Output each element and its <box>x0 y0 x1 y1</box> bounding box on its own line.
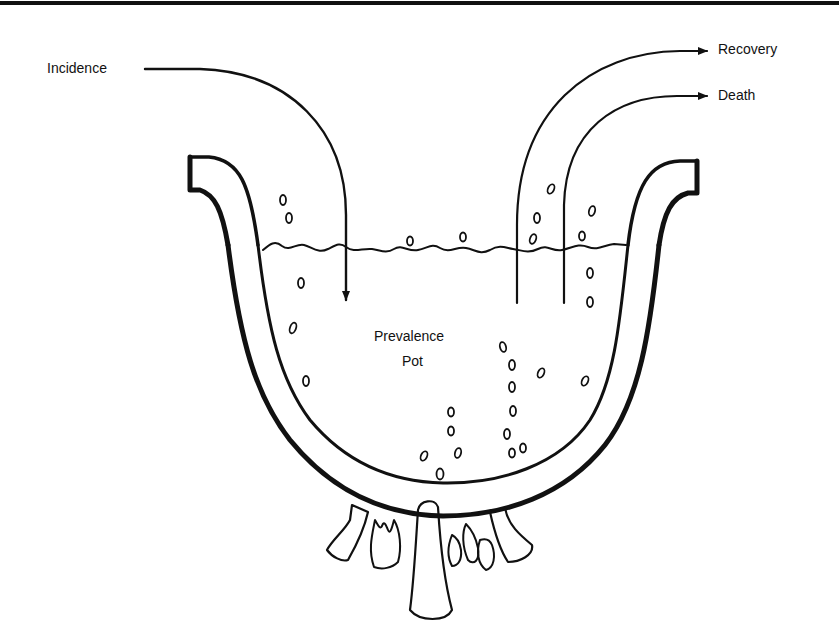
flame-right-3 <box>478 539 494 570</box>
flame-right-2 <box>463 524 478 562</box>
pot-label-line1: Prevalence <box>374 328 444 344</box>
death-label: Death <box>718 87 755 103</box>
center-leg <box>410 501 452 619</box>
prevalence-pot-diagram: Incidence Recovery Death Prevalence Pot <box>0 0 839 636</box>
pot-label-line2: Pot <box>402 353 423 369</box>
pot-left-rim-outer <box>190 157 228 245</box>
right-leg <box>490 508 532 562</box>
flame-left <box>371 520 400 568</box>
incidence-label: Incidence <box>47 60 107 76</box>
left-leg <box>327 505 368 560</box>
pot-inner-wall <box>258 245 628 483</box>
flame-right-1 <box>448 535 461 566</box>
recovery-arrow <box>517 51 707 303</box>
stand-and-fire <box>327 501 532 619</box>
pot-right-rim-outer <box>659 161 697 245</box>
recovery-label: Recovery <box>718 41 777 57</box>
water-surface <box>263 243 626 252</box>
